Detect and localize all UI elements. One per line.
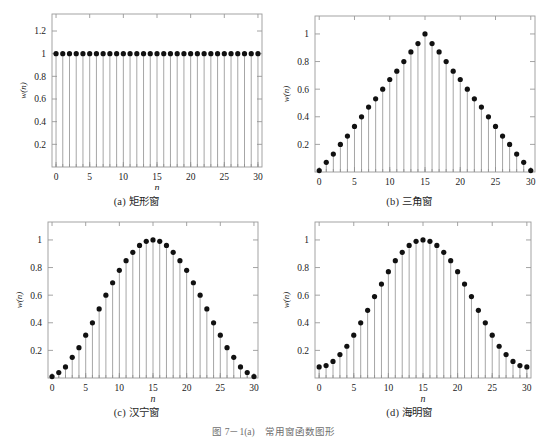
svg-text:1: 1 — [304, 29, 309, 39]
panel-hamming-window: 0510152025300.20.40.60.81nw(n) (d) 海明窗 — [273, 218, 546, 436]
svg-text:n: n — [151, 393, 156, 404]
svg-text:30: 30 — [526, 177, 536, 187]
plot-hamming-window: 0510152025300.20.40.60.81nw(n) — [273, 218, 546, 408]
panel-hanning-window: 0510152025300.20.40.60.81nw(n) (c) 汉宁窗 — [0, 218, 273, 436]
panel-rectangular-window: 0510152025300.20.40.60.811.2nw(n) (a) 矩形… — [0, 0, 273, 218]
svg-text:20: 20 — [182, 383, 192, 393]
panel-triangular-window: 0510152025300.20.40.60.81nw(n) (b) 三角窗 — [273, 0, 546, 218]
svg-text:0: 0 — [50, 383, 55, 393]
svg-text:30: 30 — [522, 383, 532, 393]
svg-text:25: 25 — [220, 172, 230, 182]
svg-text:0.4: 0.4 — [30, 318, 42, 328]
svg-text:0: 0 — [317, 177, 322, 187]
svg-text:w(n): w(n) — [281, 86, 291, 103]
svg-text:0.6: 0.6 — [297, 85, 309, 95]
panel-caption-b: (b) 三角窗 — [273, 193, 546, 208]
svg-text:25: 25 — [491, 177, 501, 187]
svg-text:0.2: 0.2 — [297, 346, 309, 356]
svg-text:5: 5 — [352, 177, 357, 187]
svg-text:0.4: 0.4 — [297, 112, 309, 122]
svg-text:25: 25 — [216, 383, 226, 393]
svg-text:20: 20 — [453, 383, 463, 393]
svg-text:15: 15 — [152, 172, 162, 182]
svg-text:0.6: 0.6 — [297, 291, 309, 301]
svg-text:30: 30 — [253, 172, 263, 182]
svg-text:10: 10 — [385, 177, 395, 187]
svg-text:0.6: 0.6 — [30, 291, 42, 301]
svg-text:10: 10 — [115, 383, 125, 393]
svg-text:0: 0 — [54, 172, 59, 182]
svg-text:15: 15 — [148, 383, 158, 393]
plot-rectangular-window: 0510152025300.20.40.60.811.2nw(n) — [0, 0, 273, 190]
svg-text:0: 0 — [317, 383, 322, 393]
svg-text:n: n — [421, 393, 426, 404]
svg-text:0.2: 0.2 — [34, 140, 46, 150]
panel-caption-d: (d) 海明窗 — [273, 404, 546, 419]
svg-text:15: 15 — [420, 177, 430, 187]
figure-caption: 图 7－1(a) 常用窗函数图形 — [0, 424, 547, 438]
svg-text:15: 15 — [418, 383, 428, 393]
svg-text:0.4: 0.4 — [34, 117, 46, 127]
svg-text:5: 5 — [351, 383, 356, 393]
svg-text:10: 10 — [119, 172, 129, 182]
svg-text:w(n): w(n) — [18, 82, 28, 99]
svg-text:0.8: 0.8 — [297, 57, 309, 67]
svg-text:20: 20 — [186, 172, 196, 182]
svg-text:5: 5 — [83, 383, 88, 393]
svg-text:0.2: 0.2 — [297, 140, 309, 150]
svg-text:10: 10 — [384, 383, 394, 393]
svg-text:0.8: 0.8 — [297, 263, 309, 273]
svg-text:0.6: 0.6 — [34, 94, 46, 104]
panel-caption-c: (c) 汉宁窗 — [0, 404, 273, 419]
svg-text:20: 20 — [456, 177, 466, 187]
plot-hanning-window: 0510152025300.20.40.60.81nw(n) — [0, 218, 273, 408]
svg-text:1: 1 — [304, 235, 309, 245]
svg-text:1: 1 — [41, 49, 46, 59]
svg-text:0.8: 0.8 — [30, 263, 42, 273]
svg-text:0.4: 0.4 — [297, 318, 309, 328]
svg-text:w(n): w(n) — [14, 292, 24, 309]
svg-text:0.2: 0.2 — [30, 346, 42, 356]
svg-text:0.8: 0.8 — [34, 72, 46, 82]
svg-text:25: 25 — [487, 383, 497, 393]
panel-caption-a: (a) 矩形窗 — [0, 193, 273, 208]
svg-text:1.2: 1.2 — [34, 26, 46, 36]
svg-text:w(n): w(n) — [281, 292, 291, 309]
svg-text:30: 30 — [249, 383, 259, 393]
svg-text:1: 1 — [37, 235, 42, 245]
plot-triangular-window: 0510152025300.20.40.60.81nw(n) — [273, 0, 546, 190]
svg-text:n: n — [423, 187, 428, 190]
svg-text:5: 5 — [87, 172, 92, 182]
svg-text:n: n — [155, 182, 160, 190]
